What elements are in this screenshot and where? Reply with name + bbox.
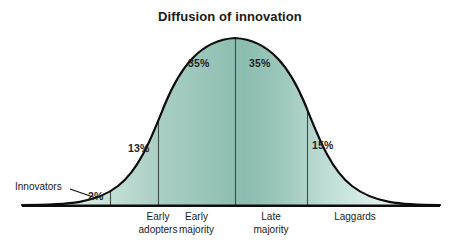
segment-label-innovators: Innovators xyxy=(15,181,62,192)
percent-label-laggards: 15% xyxy=(312,139,334,151)
curve-fill-area xyxy=(22,38,440,205)
category-label-laggards: Laggards xyxy=(307,211,403,224)
percent-label-early-majority: 35% xyxy=(188,57,210,69)
category-label-early-majority-line2: majority xyxy=(158,224,235,237)
diffusion-of-innovation-diagram: Diffusion of innovation xyxy=(0,0,460,246)
category-label-early-majority: Early majority xyxy=(158,211,235,236)
category-label-late-majority: Late majority xyxy=(235,211,307,236)
percent-label-late-majority: 35% xyxy=(249,57,271,69)
category-label-late-majority-line2: majority xyxy=(235,224,307,237)
category-label-early-majority-line1: Early xyxy=(158,211,235,224)
percent-label-innovators: 2% xyxy=(88,190,104,202)
percent-label-early-adopters: 13% xyxy=(128,142,150,154)
category-label-late-majority-line1: Late xyxy=(235,211,307,224)
bell-curve-graphic xyxy=(0,0,460,246)
category-label-laggards-line1: Laggards xyxy=(307,211,403,224)
